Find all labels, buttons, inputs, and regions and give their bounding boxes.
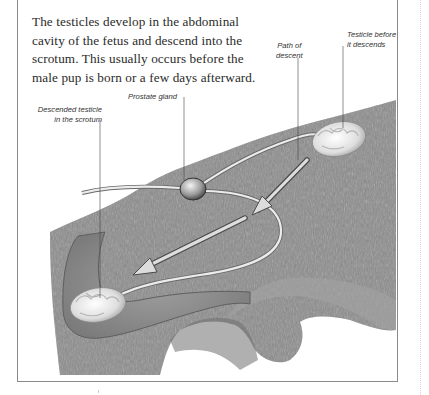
label-testicle-before-line2: it descends [347,40,396,50]
label-descended-testicle-line1: Descended testicle [28,105,102,115]
label-testicle-before: Testicle before it descends [347,30,396,49]
label-path-of-descent-line1: Path of [276,41,303,51]
label-testicle-before-line1: Testicle before [347,30,396,40]
label-path-of-descent: Path of descent [276,41,303,60]
caption-text: The testicles develop in the abdominal c… [32,13,272,87]
label-path-of-descent-line2: descent [276,51,303,61]
label-descended-testicle: Descended testicle in the scrotum [28,105,102,124]
label-descended-testicle-line2: in the scrotum [28,115,102,125]
prostate-gland [180,178,206,200]
label-prostate-gland: Prostate gland [128,92,177,102]
page-mark [98,390,99,393]
